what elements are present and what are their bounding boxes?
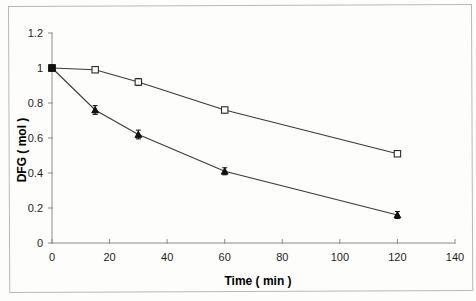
x-tick-label: 0 [49,251,55,263]
data-point-marker [135,131,142,137]
series-layer [49,65,401,219]
y-tick-label: 0.2 [28,202,43,214]
x-tick-label: 80 [276,251,288,263]
x-tick-label: 140 [446,251,464,263]
y-tick-label: 1.2 [28,27,43,39]
series-open-square-series [49,65,401,157]
data-point-marker [221,168,228,174]
y-tick-label: 0 [37,237,43,249]
y-tick-labels: 00.20.40.60.811.2 [28,27,43,249]
x-tick-label: 60 [219,251,231,263]
figure-container: 00.20.40.60.811.2 020406080100120140 DFG… [0,0,476,301]
y-tick-label: 1 [37,62,43,74]
data-point-marker [222,107,228,113]
chart-canvas: 00.20.40.60.811.2 020406080100120140 DFG… [0,0,476,301]
series-polyline [52,68,397,215]
data-point-marker [135,79,141,85]
y-axis-title: DFG ( mol ) [15,118,29,183]
x-axis-title: Time ( min ) [224,274,291,288]
x-tick-label: 120 [388,251,406,263]
x-tick-labels: 020406080100120140 [49,251,464,263]
x-tick-label: 100 [331,251,349,263]
x-tick-label: 20 [103,251,115,263]
y-tick-label: 0.6 [28,132,43,144]
x-tick-label: 40 [161,251,173,263]
x-axis [52,239,455,244]
y-tick-label: 0.4 [28,167,43,179]
y-tick-label: 0.8 [28,97,43,109]
data-point-marker [394,151,400,157]
data-point-marker [92,67,98,73]
origin-data-point [49,65,55,71]
